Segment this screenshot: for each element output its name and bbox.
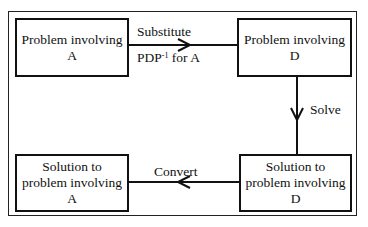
solve-label: Solve <box>310 102 341 117</box>
formula-suffix: for A <box>168 50 200 65</box>
substitute-formula-label: PDP-1 for A <box>137 50 200 65</box>
convert-label: Convert <box>154 164 198 179</box>
solution-d-label: Solution to problem involving D <box>245 159 345 207</box>
substitute-label: Substitute <box>137 24 191 39</box>
formula-superscript: -1 <box>162 51 169 60</box>
problem-a-label: Problem involving A <box>22 32 123 64</box>
solution-a-box: Solution to problem involving A <box>15 154 129 212</box>
solution-a-label: Solution to problem involving A <box>22 159 122 207</box>
problem-d-box: Problem involving D <box>237 18 352 77</box>
formula-prefix: PDP <box>137 50 162 65</box>
problem-d-label: Problem involving D <box>244 32 345 64</box>
problem-a-box: Problem involving A <box>15 18 129 77</box>
solution-d-box: Solution to problem involving D <box>239 154 352 212</box>
